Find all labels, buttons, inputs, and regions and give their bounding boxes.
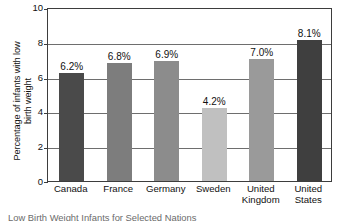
y-axis-tick-mark — [44, 182, 48, 183]
y-axis-tick-label: 6 — [27, 73, 43, 83]
y-axis-tick-label: 2 — [27, 142, 43, 152]
y-axis-tick-label: 10 — [27, 3, 43, 13]
bar-value-label: 6.9% — [137, 50, 197, 60]
bar[interactable] — [154, 61, 179, 181]
bar-chart-figure: Percentage of infants with low birth wei… — [0, 0, 337, 221]
bar[interactable] — [249, 59, 274, 181]
plot-area: 6.2%6.8%6.9%4.2%7.0%8.1% — [47, 8, 332, 182]
x-axis-category-label: United States — [278, 184, 337, 205]
bar[interactable] — [297, 40, 322, 181]
bar-value-label: 4.2% — [184, 97, 244, 107]
bar-value-label: 7.0% — [232, 48, 292, 58]
bar-value-label: 6.2% — [42, 62, 102, 72]
x-axis-category-labels: CanadaFranceGermanySwedenUnited KingdomU… — [47, 184, 332, 214]
figure-caption: Low Birth Weight Infants for Selected Na… — [8, 213, 333, 221]
bar[interactable] — [59, 73, 84, 181]
bar[interactable] — [107, 63, 132, 181]
y-axis-tick-label: 4 — [27, 107, 43, 117]
bar-value-label: 8.1% — [279, 29, 337, 39]
y-axis-tick-label: 8 — [27, 38, 43, 48]
bar[interactable] — [202, 108, 227, 181]
bar-series: 6.2%6.8%6.9%4.2%7.0%8.1% — [48, 9, 331, 181]
